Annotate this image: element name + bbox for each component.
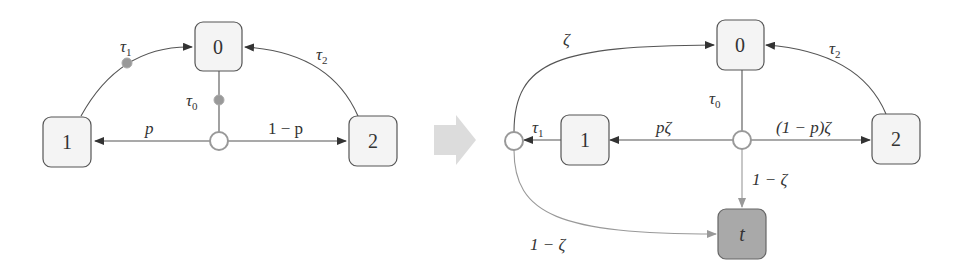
node-2: 2 [349, 116, 397, 166]
node-0: 0 [717, 20, 764, 70]
node-1: 1 [43, 117, 91, 167]
choice-node-icon [505, 132, 523, 150]
label-p: p [144, 119, 154, 138]
label-tau1: τ1 [532, 118, 544, 139]
label-one-minus-zeta-down: 1 − ζ [752, 170, 788, 189]
left-diagram: 0 1 2 τ1 τ2 τ0 p 1 − p [43, 22, 397, 167]
svg-text:2: 2 [891, 128, 901, 150]
edge-curve-to-t [514, 150, 716, 234]
svg-text:1: 1 [62, 131, 72, 153]
label-one-minus-zeta-curve: 1 − ζ [530, 235, 566, 254]
label-one-minus-p: 1 − p [268, 119, 303, 138]
label-tau0: τ0 [709, 89, 721, 110]
label-zeta: ζ [563, 30, 571, 49]
label-tau2: τ2 [316, 45, 328, 66]
label-tau0: τ0 [186, 91, 198, 112]
node-0: 0 [195, 22, 242, 71]
diagram-canvas: 0 1 2 τ1 τ2 τ0 p 1 − p 0 [0, 0, 956, 275]
edge-2-to-0 [766, 45, 886, 114]
edge-1-to-0 [81, 47, 192, 116]
label-p-zeta: pζ [655, 118, 673, 137]
svg-text:1: 1 [580, 129, 590, 151]
label-tau1: τ1 [120, 37, 132, 58]
node-2: 2 [872, 114, 920, 164]
label-tau2: τ2 [829, 39, 841, 60]
right-arrow-icon [434, 115, 476, 165]
node-t: t [718, 209, 766, 259]
edge-2-to-0 [245, 47, 358, 116]
right-diagram: 0 1 2 t ζ τ2 τ0 τ1 pζ (1 − p)ζ 1 − ζ 1 −… [505, 20, 920, 259]
svg-text:0: 0 [735, 34, 745, 56]
node-1: 1 [561, 115, 609, 165]
delay-dot-icon [214, 95, 224, 105]
edge-zeta-to-0 [514, 45, 714, 132]
delay-dot-icon [122, 58, 132, 68]
svg-text:2: 2 [368, 130, 378, 152]
label-one-minus-p-zeta: (1 − p)ζ [776, 118, 832, 137]
svg-text:t: t [739, 223, 745, 245]
choice-node-icon [733, 131, 751, 149]
choice-node-icon [210, 132, 228, 150]
svg-text:0: 0 [213, 36, 223, 58]
